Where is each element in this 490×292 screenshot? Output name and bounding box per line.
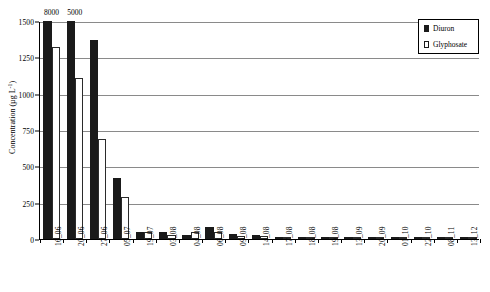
bar-group <box>248 22 271 239</box>
x-axis-tick-label: 03_08 <box>169 226 178 246</box>
x-axis-tick-label: 19_07 <box>146 226 155 246</box>
x-axis-tick-mark <box>248 239 249 243</box>
x-axis-tick-label: 05_07 <box>123 226 132 246</box>
bar-group <box>225 22 248 239</box>
x-axis-tick-label: 17_08 <box>285 226 294 246</box>
bar-diuron <box>90 40 98 239</box>
bar-glyphosate <box>52 47 60 239</box>
bar-diuron <box>252 235 260 239</box>
bar-diuron <box>159 232 167 239</box>
x-axis-tick-label: 22_10 <box>424 226 433 246</box>
bar-diuron <box>67 21 75 239</box>
x-axis-tick-label: 08_11 <box>447 227 456 246</box>
bar-group <box>387 22 410 239</box>
x-axis-tick-mark <box>179 239 180 243</box>
bar-diuron <box>460 237 468 239</box>
x-axis-tick-mark <box>318 239 319 243</box>
bar-group <box>86 22 109 239</box>
x-axis-tick-label: 27_06 <box>100 226 109 246</box>
bar-diuron <box>321 237 329 239</box>
bar-diuron <box>437 237 445 239</box>
x-axis-tick-label: 01_10 <box>401 226 410 246</box>
bar-group <box>434 22 457 239</box>
legend-entry-glyphosate: Glyphosate <box>424 40 478 49</box>
y-axis-tick-label: 750 <box>22 127 34 136</box>
bar-diuron <box>414 237 422 239</box>
chart-figure: Concentration (µg L-1) 02505007501000125… <box>0 0 490 292</box>
bar-group <box>411 22 434 239</box>
x-axis-tick-mark <box>387 239 388 243</box>
bar-group <box>63 22 86 239</box>
legend-label-glyphosate: Glyphosate <box>433 40 467 49</box>
bar-group <box>133 22 156 239</box>
bar-group <box>457 22 480 239</box>
x-axis-tick-label: 14_08 <box>262 226 271 246</box>
bar-group <box>341 22 364 239</box>
x-axis-tick-mark <box>86 239 87 243</box>
bar-group <box>109 22 132 239</box>
hollow-square-icon <box>424 41 429 48</box>
legend-label-diuron: Diuron <box>433 24 454 33</box>
x-axis-tick-label: 09_08 <box>239 226 248 246</box>
bar-group <box>156 22 179 239</box>
bar-diuron <box>43 21 51 239</box>
bar-diuron <box>368 237 376 239</box>
legend-entry-diuron: Diuron <box>424 24 478 33</box>
x-axis-tick-mark <box>364 239 365 243</box>
x-axis-tick-mark <box>480 239 481 243</box>
x-axis-tick-mark <box>411 239 412 243</box>
x-axis-tick-mark <box>202 239 203 243</box>
x-axis-tick-mark <box>457 239 458 243</box>
x-axis-tick-label: 06_08 <box>216 226 225 246</box>
y-axis-tick-label: 0 <box>30 236 34 245</box>
x-axis-tick-mark <box>225 239 226 243</box>
bar-diuron <box>136 232 144 239</box>
bar-diuron <box>275 237 283 239</box>
chart-legend: Diuron Glyphosate <box>418 19 479 54</box>
bar-diuron <box>391 237 399 239</box>
plot-area: 80005000 <box>39 22 479 240</box>
bar-group <box>364 22 387 239</box>
bar-diuron <box>113 178 121 239</box>
y-axis-tick-label: 1250 <box>19 54 34 63</box>
bar-group <box>295 22 318 239</box>
bar-diuron <box>229 234 237 239</box>
x-axis-tick-label: 04_08 <box>193 226 202 246</box>
bar-diuron <box>344 237 352 239</box>
bar-group <box>40 22 63 239</box>
bar-group <box>318 22 341 239</box>
x-axis-tick-mark <box>40 239 41 243</box>
bar-glyphosate <box>75 78 83 239</box>
bar-diuron <box>182 235 190 239</box>
x-axis-tick-label: 20_06 <box>77 226 86 246</box>
x-axis-tick-mark <box>295 239 296 243</box>
y-axis-tick-label: 1000 <box>19 90 34 99</box>
bar-group <box>272 22 295 239</box>
bar-diuron <box>205 227 213 239</box>
x-axis-tick-mark <box>272 239 273 243</box>
x-axis-tick-label: 13_12 <box>470 226 479 246</box>
x-axis-tick-label: 19_08 <box>331 226 340 246</box>
x-axis-tick-mark <box>133 239 134 243</box>
y-axis-tick-label: 1500 <box>19 18 34 27</box>
y-axis: 0250500750100012501500 <box>0 22 39 241</box>
clipped-value-label: 5000 <box>67 8 82 17</box>
x-axis-tick-label: 13_09 <box>355 226 364 246</box>
bar-group <box>179 22 202 239</box>
bar-diuron <box>298 237 306 239</box>
x-axis-tick-mark <box>156 239 157 243</box>
bar-glyphosate <box>98 139 106 239</box>
y-axis-tick-label: 250 <box>22 199 34 208</box>
x-axis-tick-mark <box>109 239 110 243</box>
clipped-value-label: 8000 <box>44 8 59 17</box>
x-axis-tick-label: 20_09 <box>378 226 387 246</box>
filled-square-icon <box>424 25 429 32</box>
x-axis-tick-mark <box>341 239 342 243</box>
y-axis-tick-label: 500 <box>22 163 34 172</box>
x-axis-tick-mark <box>63 239 64 243</box>
x-axis-tick-mark <box>434 239 435 243</box>
x-axis-tick-label: 16_06 <box>54 226 63 246</box>
bar-group <box>202 22 225 239</box>
x-axis-tick-label: 18_08 <box>308 226 317 246</box>
